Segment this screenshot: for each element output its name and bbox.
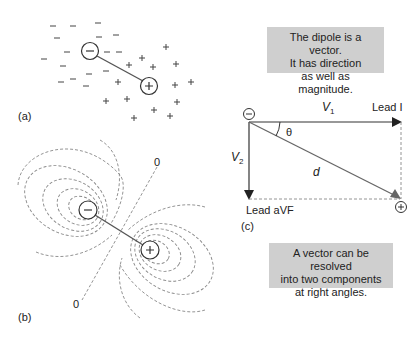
- note-bottom-line: at right angles.: [275, 286, 387, 299]
- note-top-line: It has direction: [273, 57, 378, 70]
- zero-label-bottom: 0: [73, 298, 79, 310]
- d-vector: [249, 122, 394, 195]
- arrowhead-icon: [392, 117, 402, 127]
- v2-label: V2: [231, 150, 243, 166]
- v2-sub: 2: [239, 157, 243, 166]
- v1-text: V: [322, 100, 330, 114]
- lead-i-label: Lead I: [372, 101, 403, 113]
- arrowhead-icon: [244, 190, 254, 200]
- note-top-line: as well as magnitude.: [273, 70, 378, 96]
- v2-text: V: [231, 150, 239, 164]
- zero-label-top: 0: [154, 156, 160, 168]
- v1-sub: 1: [330, 107, 334, 116]
- v1-label: V1: [322, 100, 334, 116]
- d-label: d: [313, 165, 320, 179]
- note-top: The dipole is a vector. It has direction…: [267, 27, 384, 73]
- panel-b-label: (b): [18, 311, 31, 323]
- panel-b-field-lines: [12, 140, 226, 318]
- lead-avf-label: Lead aVF: [246, 204, 294, 216]
- panel-b-dipole: [79, 201, 159, 259]
- note-bottom-line: into two components: [275, 273, 387, 286]
- dipole-vector-figure: (a) (b) 0 0 (c) The dipole is a vector. …: [0, 0, 420, 337]
- note-bottom: A vector can be resolved into two compon…: [269, 243, 393, 288]
- panel-a-charges: [41, 23, 194, 121]
- angle-arc: [276, 122, 280, 136]
- note-top-line: The dipole is a vector.: [273, 31, 378, 57]
- panel-c-label: (c): [241, 220, 254, 232]
- panel-a-label: (a): [18, 110, 31, 122]
- theta-label: θ: [286, 126, 292, 138]
- note-bottom-line: A vector can be resolved: [275, 247, 387, 273]
- panel-c-vectors: [244, 109, 407, 213]
- negative-charges: [41, 23, 122, 86]
